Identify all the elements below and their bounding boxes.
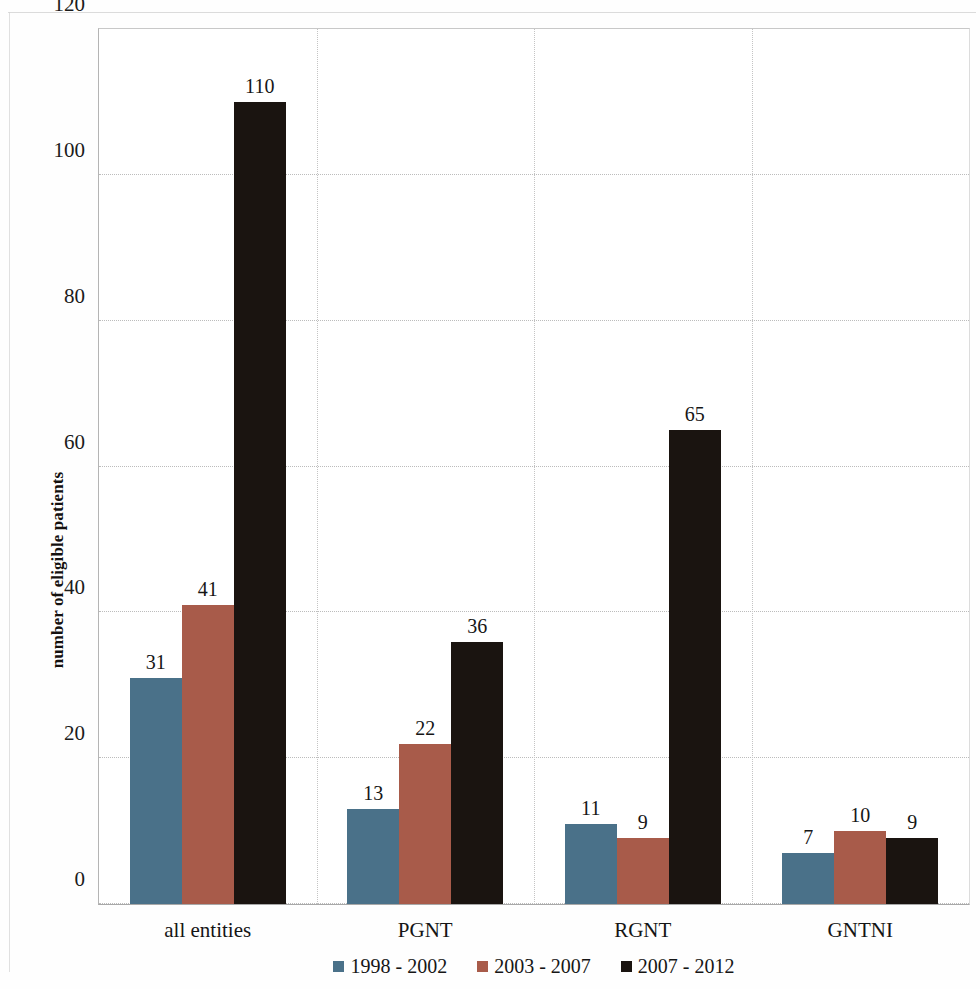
legend-label: 1998 - 2002 (350, 955, 447, 978)
bar-slot: 7 (782, 29, 834, 904)
legend-swatch-icon (477, 961, 488, 972)
bar-group: 7109GNTNI (752, 29, 970, 904)
bar[interactable]: 41 (182, 605, 234, 904)
y-axis-tick-label: 80 (64, 283, 85, 308)
bar-slot: 110 (234, 29, 286, 904)
bar-value-label: 36 (467, 615, 487, 638)
chart-figure: number of eligible patients 020406080100… (0, 0, 980, 989)
bar-slot: 10 (834, 29, 886, 904)
y-axis-tick-label: 100 (54, 137, 86, 162)
bar-slot: 65 (669, 29, 721, 904)
bar[interactable]: 7 (782, 853, 834, 904)
bar-slot: 36 (451, 29, 503, 904)
bar-group: 3141110all entities (99, 29, 317, 904)
bar-slot: 9 (886, 29, 938, 904)
legend-item[interactable]: 2003 - 2007 (477, 955, 591, 978)
bar[interactable]: 65 (669, 430, 721, 904)
bar-value-label: 13 (363, 782, 383, 805)
x-axis-category-label: PGNT (317, 918, 535, 943)
bar-slot: 22 (399, 29, 451, 904)
y-axis-tick-label: 60 (64, 429, 85, 454)
legend-item[interactable]: 1998 - 2002 (333, 955, 447, 978)
bar-slot: 31 (130, 29, 182, 904)
bar-slot: 9 (617, 29, 669, 904)
bar-group: 132236PGNT (317, 29, 535, 904)
bar[interactable]: 22 (399, 744, 451, 904)
x-axis-category-label: all entities (99, 918, 317, 943)
legend-label: 2003 - 2007 (494, 955, 591, 978)
bar-group-bars: 132236 (317, 29, 535, 904)
x-axis-category-label: RGNT (534, 918, 752, 943)
bar[interactable]: 110 (234, 102, 286, 904)
bar[interactable]: 36 (451, 642, 503, 905)
x-axis-category-label: GNTNI (752, 918, 970, 943)
y-axis-tick-label: 20 (64, 721, 85, 746)
bar[interactable]: 9 (886, 838, 938, 904)
bar[interactable]: 13 (347, 809, 399, 904)
bar-value-label: 11 (581, 797, 600, 820)
bar-slot: 13 (347, 29, 399, 904)
scan-edge-left (9, 12, 10, 972)
scan-edge-top (8, 12, 976, 13)
legend-label: 2007 - 2012 (638, 955, 735, 978)
bar-value-label: 41 (198, 578, 218, 601)
bar[interactable]: 10 (834, 831, 886, 904)
bar-value-label: 31 (146, 651, 166, 674)
bar-group-bars: 3141110 (99, 29, 317, 904)
legend-swatch-icon (621, 961, 632, 972)
y-axis-tick-label: 120 (54, 0, 86, 17)
bar-group-bars: 7109 (752, 29, 970, 904)
bar-value-label: 110 (245, 75, 274, 98)
bar-value-label: 22 (415, 717, 435, 740)
bar-slot: 11 (565, 29, 617, 904)
bar-value-label: 7 (803, 826, 813, 849)
y-axis-tick-label: 0 (75, 867, 86, 892)
bar-groups: 3141110all entities132236PGNT11965RGNT71… (99, 29, 969, 904)
y-axis-tick-label: 40 (64, 575, 85, 600)
legend-swatch-icon (333, 961, 344, 972)
y-axis-title: number of eligible patients (48, 435, 68, 705)
bar[interactable]: 11 (565, 824, 617, 904)
bar-slot: 41 (182, 29, 234, 904)
bar-value-label: 9 (907, 811, 917, 834)
bar-value-label: 65 (685, 403, 705, 426)
bar[interactable]: 31 (130, 678, 182, 904)
bar-group-bars: 11965 (534, 29, 752, 904)
bar-value-label: 9 (638, 811, 648, 834)
bar[interactable]: 9 (617, 838, 669, 904)
bar-group: 11965RGNT (534, 29, 752, 904)
legend-item[interactable]: 2007 - 2012 (621, 955, 735, 978)
bar-value-label: 10 (850, 804, 870, 827)
chart-legend: 1998 - 20022003 - 20072007 - 2012 (98, 955, 970, 978)
plot-area: 020406080100120 3141110all entities13223… (98, 28, 970, 905)
